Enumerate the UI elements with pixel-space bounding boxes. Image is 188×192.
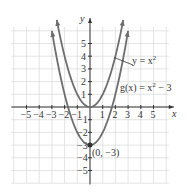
x-tick-label: 1: [100, 109, 105, 120]
y-tick-label: 3: [81, 63, 86, 74]
graph: −5−4−3−2−11234554321−1−2−3−4−5 y x y = x…: [0, 0, 188, 192]
x-tick-label: −4: [33, 109, 44, 120]
y-tick-label: −5: [77, 165, 88, 176]
curve-label-y-equals-x-squared: y = x2: [132, 54, 157, 66]
y-tick-label: −4: [77, 152, 88, 163]
x-tick-label: 5: [151, 109, 156, 120]
y-tick-label: 5: [81, 38, 86, 49]
vertex-label: (0, −3): [92, 147, 119, 159]
y-tick-label: 1: [81, 89, 86, 100]
x-tick-label: −3: [46, 109, 57, 120]
x-axis-label: x: [171, 108, 177, 119]
x-tick-label: −5: [21, 109, 32, 120]
x-tick-label: 4: [138, 109, 143, 120]
y-tick-label: 2: [81, 76, 86, 87]
y-axis-label: y: [79, 13, 85, 24]
y-tick-label: 4: [81, 51, 86, 62]
x-tick-label: 3: [125, 109, 130, 120]
curve-label-g-of-x: g(x) = x2 − 3: [120, 81, 171, 94]
axes: −5−4−3−2−11234554321−1−2−3−4−5: [11, 18, 174, 184]
y-tick-label: −1: [77, 114, 88, 125]
x-tick-label: −2: [59, 109, 70, 120]
y-axis-arrow-icon: [88, 18, 92, 23]
x-tick-label: 2: [112, 109, 117, 120]
